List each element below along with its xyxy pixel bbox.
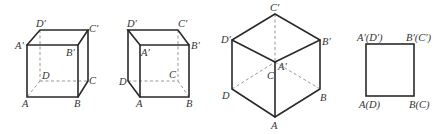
right-face xyxy=(78,30,88,97)
label-bottom-right: B(C) xyxy=(409,99,430,111)
label-C1: C′ xyxy=(89,23,99,34)
cube-front-right: A B C D A′ B′ C′ D′ xyxy=(14,18,99,109)
label-top-right: B′(C′) xyxy=(406,32,432,44)
top-face xyxy=(128,30,189,45)
label-A: A xyxy=(270,120,278,131)
label-A1: A′ xyxy=(14,40,24,51)
label-D: D xyxy=(41,70,50,81)
label-C: C xyxy=(267,70,275,81)
edge-D1A1 xyxy=(232,40,275,62)
label-A1: A′ xyxy=(140,47,150,58)
left-face xyxy=(128,30,140,97)
label-B1: B′ xyxy=(191,40,200,51)
label-D1: D′ xyxy=(35,18,47,29)
top-face xyxy=(27,30,88,45)
label-C1: C′ xyxy=(178,18,188,29)
label-A: A xyxy=(135,98,143,109)
square-outline xyxy=(366,44,414,96)
label-D: D xyxy=(221,90,230,101)
label-B1: B′ xyxy=(322,36,331,47)
label-A: A xyxy=(21,98,29,109)
square-front-view: A′(D′) B′(C′) A(D) B(C) xyxy=(356,32,432,111)
label-C: C xyxy=(89,75,97,86)
hidden-edge-DA xyxy=(27,81,40,97)
label-D1: D′ xyxy=(126,18,138,29)
diagram-canvas: A B C D A′ B′ C′ D′ A B C D A′ B′ C′ D′ … xyxy=(0,0,446,134)
label-C1: C′ xyxy=(270,2,280,13)
label-C: C xyxy=(169,69,177,80)
label-B: B xyxy=(320,92,327,103)
cube-isometric: A B C D A′ B′ C′ D′ xyxy=(220,2,331,131)
hidden-edge-CB xyxy=(178,81,189,97)
label-top-left: A′(D′) xyxy=(356,32,383,44)
label-bottom-left: A(D) xyxy=(358,99,380,111)
edge-B1A1 xyxy=(275,40,320,62)
label-D: D xyxy=(118,76,127,87)
label-B1: B′ xyxy=(66,47,75,58)
label-D1: D′ xyxy=(220,34,232,45)
label-B: B xyxy=(186,98,193,109)
label-B: B xyxy=(74,98,81,109)
label-A1: A′ xyxy=(277,61,287,72)
outline-hexagon xyxy=(232,14,320,117)
cube-front-left: A B C D A′ B′ C′ D′ xyxy=(118,18,200,109)
